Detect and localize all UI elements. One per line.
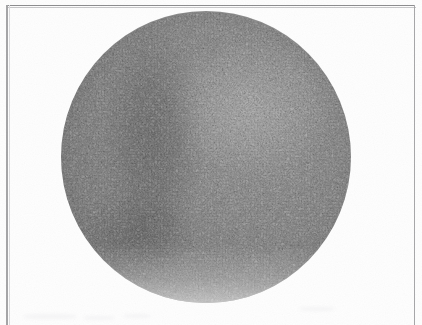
scan-smudge-artifact — [84, 316, 114, 320]
bottom-edge-fade — [61, 11, 351, 303]
disc-illustration — [0, 0, 422, 325]
scan-smudge-artifact — [24, 314, 76, 319]
scan-smudge-artifact — [300, 307, 334, 311]
scan-smudge-artifact — [124, 314, 150, 318]
halftone-plate — [0, 0, 422, 325]
